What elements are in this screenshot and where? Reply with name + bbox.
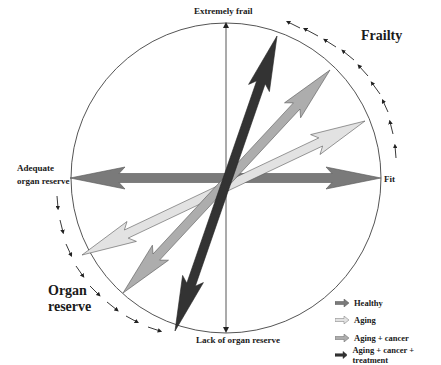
legend-item-aging-cancer-treatment: Aging + cancer + treatment: [335, 348, 441, 363]
label-organ-reserve-axis: organ reserve: [17, 176, 70, 186]
label-frailty: Frailty: [361, 28, 402, 44]
legend-label: Healthy: [354, 298, 383, 308]
legend-item-healthy: Healthy: [335, 295, 441, 310]
legend: Healthy Aging Aging + cancer Aging + can…: [335, 295, 441, 365]
label-organ: Organ: [48, 283, 87, 299]
legend-item-aging-cancer: Aging + cancer: [335, 330, 441, 345]
arrow-icon: [335, 334, 349, 342]
legend-item-aging: Aging: [335, 313, 441, 328]
legend-label: Aging + cancer: [354, 333, 409, 343]
arrow-icon: [335, 299, 349, 307]
label-lack-of-organ-reserve: Lack of organ reserve: [196, 335, 280, 345]
arrow-icon: [335, 316, 349, 324]
arrows-layer: [70, 36, 381, 331]
vertical-axis-bottom-tip-icon: [223, 327, 229, 333]
legend-label: Aging: [354, 315, 376, 325]
legend-label: Aging + cancer + treatment: [352, 345, 441, 365]
label-adequate: Adequate: [17, 163, 54, 173]
label-reserve: reserve: [48, 299, 91, 315]
label-extremely-frail: Extremely frail: [194, 6, 253, 16]
arrow-icon: [335, 351, 347, 359]
label-fit: Fit: [384, 174, 395, 184]
